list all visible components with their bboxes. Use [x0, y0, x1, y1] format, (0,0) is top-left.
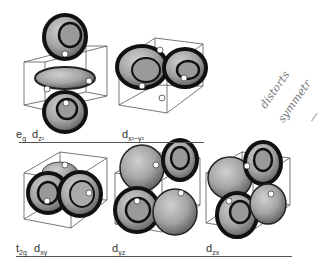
orbital-dyz [115, 140, 200, 235]
t2g-set-label: t2g [16, 243, 27, 256]
orbital-diagram [0, 0, 324, 268]
eg-divider [19, 142, 204, 143]
dxy-label: dxy [34, 243, 47, 256]
t2g-divider [16, 256, 292, 257]
dzx-label: dzx [206, 243, 219, 256]
orbital-dzx [206, 142, 290, 237]
orbital-dxy [24, 152, 107, 228]
orbital-dz2 [24, 15, 107, 132]
eg-set-label: eg [16, 129, 26, 142]
dyz-label: dyz [112, 243, 125, 256]
dx2-y2-label: dx²−y² [122, 129, 144, 142]
dz2-label: dz² [32, 129, 44, 142]
orbital-dx2-y2 [117, 38, 206, 113]
